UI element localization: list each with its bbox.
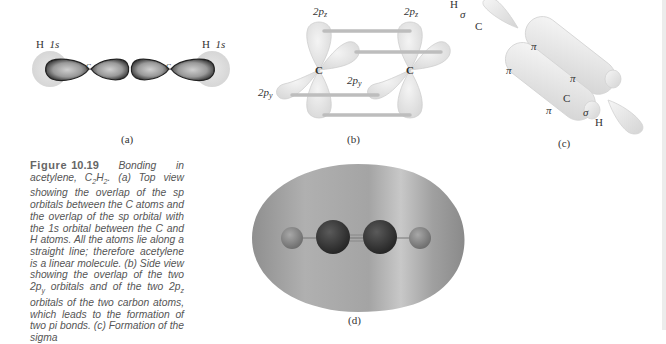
c-atom-label: C <box>86 63 91 72</box>
sigma-label: σ <box>583 106 588 118</box>
h-atom-label: H <box>595 116 603 128</box>
sp-lobe <box>91 59 129 80</box>
hydrogen-atom <box>409 227 431 249</box>
c-atom-label: C <box>166 63 171 72</box>
c-atom-label: C <box>406 64 414 76</box>
panel-c: H σ C π π π π C σ H (c) <box>440 0 662 160</box>
hydrogen-atom <box>281 227 303 249</box>
sigma-label: σ <box>460 8 465 20</box>
figure-label: Figure <box>30 159 67 171</box>
panel-caption-c: (c) <box>558 137 570 149</box>
sigma-pi-bond-diagram <box>440 0 662 160</box>
orbital-label: 1s <box>49 38 59 50</box>
panel-a: H 1s H 1s C C (a) <box>0 0 240 160</box>
pi-label: π <box>546 104 552 116</box>
h-atom-label: H <box>450 0 458 10</box>
page-edge <box>662 0 666 330</box>
sp-orbital-diagram <box>0 0 240 160</box>
orbital-label: 2p <box>404 5 415 17</box>
electron-density-model <box>240 150 500 330</box>
pi-label: π <box>506 64 512 76</box>
carbon-atom <box>316 220 350 254</box>
figure-number: 10.19 <box>71 159 99 171</box>
figure-caption: Figure10.19 Bonding in acetylene, C2H2. … <box>30 160 184 344</box>
carbon-atom <box>363 220 397 254</box>
h-atom-label: H <box>202 38 210 50</box>
pi-label: π <box>531 40 537 52</box>
pi-label: π <box>570 72 576 84</box>
c-atom-label: C <box>563 92 570 104</box>
c-atom-label: C <box>475 20 482 32</box>
orbital-label: 1s <box>215 38 225 50</box>
h-atom-label: H <box>36 38 44 50</box>
panel-d: (d) <box>240 150 500 330</box>
sp-lobe <box>131 59 169 80</box>
sp-lobe <box>46 59 89 80</box>
panel-caption-a: (a) <box>121 133 133 145</box>
sp-lobe <box>171 59 214 80</box>
panel-caption-d: (d) <box>348 314 361 326</box>
orbital-label: 2p <box>313 5 324 17</box>
orbital-label: 2p <box>258 86 269 98</box>
orbital-label: 2p <box>347 74 358 86</box>
panel-b: 2pz 2pz 2py 2py C C (b) <box>240 0 460 160</box>
panel-caption-b: (b) <box>347 133 360 145</box>
c-atom-label: C <box>315 64 323 76</box>
